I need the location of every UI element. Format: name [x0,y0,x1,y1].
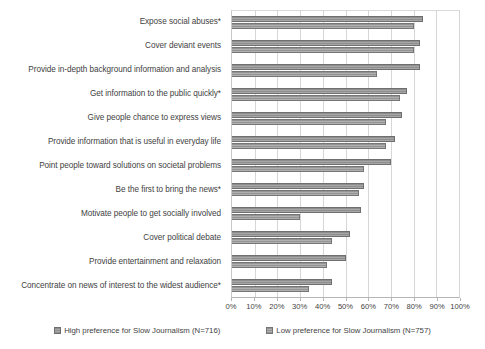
x-tick-mark [277,298,278,301]
legend-item[interactable]: High preference for Slow Journalism (N=7… [54,326,220,335]
bar-high-preference [232,207,361,213]
bar-group [232,11,459,35]
bar-high-preference [232,183,364,189]
category-label: Cover political debate [0,226,226,250]
x-tick-label: 70% [384,302,399,311]
category-label: Provide entertainment and relaxation [0,250,226,274]
bar-low-preference [232,286,309,292]
legend-swatch-icon [266,327,273,334]
bar-low-preference [232,143,386,149]
x-tick-label: 80% [407,302,422,311]
bar-group [232,59,459,83]
bar-low-preference [232,238,332,244]
x-tick-label: 90% [429,302,444,311]
bar-high-preference [232,64,420,70]
category-label: Give people chance to express views [0,106,226,130]
category-label: Provide information that is useful in ev… [0,130,226,154]
x-tick-label: 20% [269,302,284,311]
x-tick-mark [300,298,301,301]
x-tick-mark [346,298,347,301]
bar-group [232,202,459,226]
x-tick-mark [231,298,232,301]
x-tick-mark [323,298,324,301]
bar-low-preference [232,23,414,29]
bar-high-preference [232,136,395,142]
bar-low-preference [232,47,414,53]
category-label: Motivate people to get socially involved [0,202,226,226]
bar-high-preference [232,88,407,94]
x-tick-label: 100% [450,302,469,311]
bar-group [232,82,459,106]
x-tick-mark [460,298,461,301]
bar-low-preference [232,214,300,220]
category-label: Provide in-depth background information … [0,58,226,82]
bar-group [232,35,459,59]
category-label: Get information to the public quickly* [0,82,226,106]
bar-group [232,154,459,178]
bar-low-preference [232,262,327,268]
bar-low-preference [232,190,359,196]
bar-low-preference [232,119,386,125]
x-tick-label: 10% [246,302,261,311]
bar-high-preference [232,255,346,261]
legend-item[interactable]: Low preference for Slow Journalism (N=75… [266,326,431,335]
x-tick-label: 60% [361,302,376,311]
bar-high-preference [232,112,402,118]
bar-low-preference [232,95,400,101]
x-tick-mark [254,298,255,301]
legend-swatch-icon [54,327,61,334]
chart-legend: High preference for Slow Journalism (N=7… [0,326,485,335]
x-tick-mark [437,298,438,301]
category-label: Cover deviant events [0,34,226,58]
legend-label: Low preference for Slow Journalism (N=75… [276,326,431,335]
horizontal-bar-chart: Expose social abuses*Cover deviant event… [0,0,485,349]
x-tick-mark [414,298,415,301]
gridline [459,11,460,297]
plot-wrapper: Expose social abuses*Cover deviant event… [0,0,485,305]
x-tick-mark [368,298,369,301]
bar-group [232,130,459,154]
x-tick-label: 40% [315,302,330,311]
bar-group [232,225,459,249]
category-axis-labels: Expose social abuses*Cover deviant event… [0,10,226,298]
x-tick-label: 50% [338,302,353,311]
bar-group [232,106,459,130]
category-label: Concentrate on news of interest to the w… [0,274,226,298]
bar-group [232,249,459,273]
category-label: Be the first to bring the news* [0,178,226,202]
legend-label: High preference for Slow Journalism (N=7… [64,326,220,335]
category-label: Point people toward solutions on societa… [0,154,226,178]
bar-high-preference [232,40,420,46]
bar-rows [232,11,459,297]
x-tick-label: 30% [292,302,307,311]
x-tick-mark [391,298,392,301]
bar-low-preference [232,71,377,77]
bar-high-preference [232,159,391,165]
x-axis: 0%10%20%30%40%50%60%70%80%90%100% [231,298,460,314]
bar-high-preference [232,16,423,22]
bar-low-preference [232,166,364,172]
bar-group [232,178,459,202]
bar-group [232,273,459,297]
plot-area [231,10,460,298]
category-label: Expose social abuses* [0,10,226,34]
bar-high-preference [232,279,332,285]
bar-high-preference [232,231,350,237]
x-tick-label: 0% [226,302,237,311]
